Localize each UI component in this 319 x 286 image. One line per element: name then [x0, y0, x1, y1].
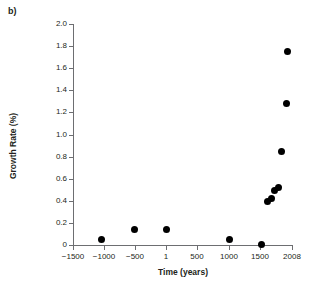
y-axis-tick-labels: 00.20.40.60.81.01.21.41.61.82.0 [36, 0, 67, 286]
x-axis-tick [197, 246, 198, 250]
x-axis-tick [135, 246, 136, 250]
data-point [98, 236, 105, 243]
y-axis-tick-label: 1.8 [39, 42, 67, 50]
data-point [258, 241, 265, 248]
y-axis-title: Growth Rate (%) [8, 0, 18, 96]
y-axis-tick-label: 1.4 [39, 86, 67, 94]
y-axis-tick-label: 2.0 [39, 20, 67, 28]
y-axis-tick-label: 1.6 [39, 64, 67, 72]
data-point [226, 236, 233, 243]
data-point [275, 184, 282, 191]
x-axis-title: Time (years) [73, 267, 293, 277]
data-point [268, 195, 275, 202]
y-axis-tick-label: 0.6 [39, 175, 67, 183]
y-axis-tick-label: 0 [39, 241, 67, 249]
x-axis-tick [292, 246, 293, 250]
x-axis-tick [73, 246, 74, 250]
data-point [131, 226, 138, 233]
data-point [278, 148, 285, 155]
y-axis-tick-label: 0.2 [39, 219, 67, 227]
y-axis-tick-label: 0.8 [39, 153, 67, 161]
y-axis-tick-label: 1.2 [39, 108, 67, 116]
data-point [163, 226, 170, 233]
x-axis-tick [229, 246, 230, 250]
data-point [283, 100, 290, 107]
x-axis-tick [104, 246, 105, 250]
y-axis-title-text: Growth Rate (%) [8, 96, 18, 196]
figure-panel-b: b) 00.20.40.60.81.01.21.41.61.82.0 −1500… [0, 0, 319, 286]
data-point [284, 48, 291, 55]
x-axis-tick [166, 246, 167, 250]
x-axis-tick-label: 2008 [270, 252, 314, 261]
y-axis-tick-label: 1.0 [39, 131, 67, 139]
y-axis-tick-label: 0.4 [39, 197, 67, 205]
plot-area [73, 24, 292, 245]
